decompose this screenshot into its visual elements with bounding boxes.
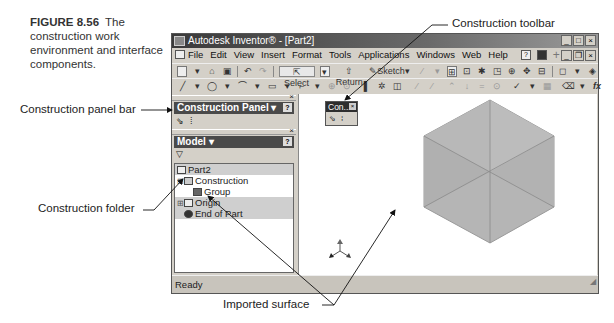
move-icon[interactable]: ⁄	[427, 81, 437, 92]
sketch-button[interactable]: ✎Sketch	[369, 66, 397, 77]
inventor-window: Autodesk Inventor® - [Part2] _ □ × File …	[171, 33, 599, 294]
menu-view[interactable]: View	[234, 48, 254, 62]
tangent-icon[interactable]: ↓	[462, 81, 472, 92]
construction-panel-title: Construction Panel ▾	[177, 102, 276, 113]
dropdown-arrow-icon[interactable]: ▾	[192, 81, 202, 92]
app-icon	[174, 36, 185, 46]
title-bar[interactable]: Autodesk Inventor® - [Part2] _ □ ×	[172, 34, 598, 48]
menu-web[interactable]: Web	[462, 48, 481, 62]
dropdown-arrow-icon[interactable]: ▾	[312, 81, 322, 92]
return-button[interactable]: ⇧ Return	[335, 66, 365, 77]
help-icon[interactable]: ?	[521, 50, 531, 60]
construction-panel-bar[interactable]: Construction Panel ▾ ?	[174, 102, 294, 114]
tree-node-end-of-part[interactable]: End of Part	[175, 208, 293, 219]
redo-icon[interactable]: ↷	[258, 66, 268, 77]
look-at-icon[interactable]: ⊟	[537, 66, 547, 77]
doc-minimize-button[interactable]: _	[561, 50, 572, 61]
menu-insert[interactable]: Insert	[261, 48, 285, 62]
model-panel-bar[interactable]: Model ▾ ?	[174, 136, 294, 148]
tree-node-group[interactable]: Group	[175, 186, 293, 197]
arc-icon[interactable]: ⌒	[237, 81, 247, 92]
mirror-icon[interactable]: ▌	[362, 81, 372, 92]
rectangle-icon[interactable]: ▭	[267, 81, 277, 92]
new-icon[interactable]	[177, 66, 187, 77]
project-icon[interactable]: ⁄	[417, 66, 427, 77]
offset-icon[interactable]: ✲	[377, 81, 387, 92]
grid-icon[interactable]: ▦	[542, 81, 552, 92]
separator	[273, 66, 274, 77]
point-icon[interactable]: ⊕	[327, 81, 337, 92]
tree-node-origin[interactable]: ⊞Origin	[175, 197, 293, 208]
open-icon[interactable]: ⌂	[207, 66, 217, 77]
model-panel-title: Model ▾	[177, 136, 214, 147]
menu-tools[interactable]: Tools	[329, 48, 351, 62]
stitch-icon[interactable]: ⁞	[190, 116, 193, 126]
eraser-icon[interactable]: ⌫	[562, 81, 572, 92]
maximize-button[interactable]: □	[573, 35, 584, 46]
dropdown-arrow-icon[interactable]: ▾	[527, 81, 537, 92]
zoom-all-icon[interactable]: ⊞	[447, 66, 457, 77]
tree-node-label: Construction	[195, 175, 248, 186]
pan-icon[interactable]: ◳	[492, 66, 502, 77]
help-icon[interactable]: ?	[283, 137, 292, 146]
status-text: Ready	[175, 279, 202, 290]
constraint-icon[interactable]: ⌃	[447, 81, 457, 92]
doc-restore-button[interactable]: ❐	[573, 50, 584, 61]
tree-node-construction[interactable]: ⊟Construction	[175, 175, 293, 186]
link-icon[interactable]: ⇘	[176, 116, 184, 126]
camera-view-icon[interactable]: ◈	[588, 66, 598, 77]
doc-close-button[interactable]: ×	[585, 50, 596, 61]
menu-edit[interactable]: Edit	[210, 48, 226, 62]
plus-icon[interactable]: +	[553, 48, 560, 62]
tree-node-label: Part2	[188, 164, 211, 175]
menu-format[interactable]: Format	[292, 48, 322, 62]
window-controls: _ □ ×	[561, 35, 596, 46]
extend-icon[interactable]: ◫	[392, 81, 402, 92]
dropdown-arrow-icon[interactable]: ▾	[252, 81, 262, 92]
select-button[interactable]: ⇱ Select	[279, 66, 315, 77]
fillet-icon[interactable]: ⌐	[297, 81, 307, 92]
select-dropdown-icon[interactable]: ▾	[320, 66, 330, 77]
tree-node-label: End of Part	[195, 208, 243, 219]
dropdown-arrow-icon[interactable]: ▾	[192, 66, 202, 77]
help-icon[interactable]: ?	[283, 103, 292, 112]
menu-file[interactable]: File	[188, 48, 203, 62]
check-icon[interactable]: ✓	[512, 81, 522, 92]
zoom-icon[interactable]: ✱	[477, 66, 487, 77]
panel-grip[interactable]: ×	[172, 129, 296, 135]
tree-node-part2[interactable]: Part2	[175, 164, 293, 175]
line-icon[interactable]: ╱	[177, 81, 187, 92]
sketch-dropdown-icon[interactable]: ▾	[402, 66, 412, 77]
close-button[interactable]: ×	[585, 35, 596, 46]
zoom-selected-icon[interactable]: ⊕	[507, 66, 517, 77]
resize-grip-icon[interactable]: ◢	[590, 273, 596, 291]
menu-help[interactable]: Help	[488, 48, 508, 62]
close-icon[interactable]: ×	[289, 92, 294, 101]
rotate-icon[interactable]: ✥	[522, 66, 532, 77]
trim-icon[interactable]: ⁄	[412, 81, 422, 92]
save-icon[interactable]: ▣	[222, 66, 232, 77]
dropdown-arrow-icon[interactable]: ▾	[573, 66, 583, 77]
menu-windows[interactable]: Windows	[416, 48, 455, 62]
dropdown-arrow-icon[interactable]: ▾	[577, 81, 587, 92]
fix-icon[interactable]: ⊙	[492, 81, 502, 92]
dropdown-arrow-icon[interactable]: ▾	[222, 81, 232, 92]
equal-icon[interactable]: =	[477, 81, 487, 92]
dropdown-arrow-icon[interactable]: ▾	[432, 66, 442, 77]
parameters-button[interactable]: fx	[592, 81, 602, 92]
document-icon[interactable]	[175, 50, 185, 59]
zoom-window-icon[interactable]: ⊡	[462, 66, 472, 77]
camera-icon[interactable]	[537, 50, 547, 60]
panel-grip[interactable]: ×	[172, 95, 296, 101]
figure-caption: FIGURE 8.56The construction work environ…	[30, 15, 165, 71]
display-mode-icon[interactable]: ◻	[558, 66, 568, 77]
graphics-window[interactable]: Con... × ⇘ ⁞	[298, 94, 597, 275]
dropdown-arrow-icon[interactable]: ▾	[282, 81, 292, 92]
close-icon[interactable]: ×	[289, 126, 294, 135]
polygon-icon[interactable]: ⊙	[342, 81, 352, 92]
minimize-button[interactable]: _	[561, 35, 572, 46]
circle-icon[interactable]: ◯	[207, 81, 217, 92]
filter-icon[interactable]: ▽	[172, 148, 296, 160]
menu-applications[interactable]: Applications	[358, 48, 409, 62]
undo-icon[interactable]: ↶	[243, 66, 253, 77]
